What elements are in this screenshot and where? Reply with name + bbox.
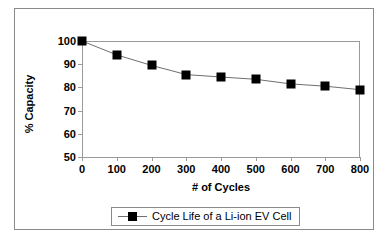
- x-tick-label: 800: [351, 163, 369, 175]
- x-tick: [325, 157, 326, 161]
- y-tick-label: 70: [64, 105, 76, 117]
- y-tick-label: 50: [64, 151, 76, 163]
- x-tick-label: 700: [316, 163, 334, 175]
- y-tick-label: 60: [64, 128, 76, 140]
- x-tick: [186, 157, 187, 161]
- x-tick-label: 300: [177, 163, 195, 175]
- x-tick-label: 600: [281, 163, 299, 175]
- x-tick: [221, 157, 222, 161]
- x-tick-label: 200: [142, 163, 160, 175]
- x-tick-label: 0: [79, 163, 85, 175]
- data-point-marker: [78, 37, 87, 46]
- legend-line-segment-right: [137, 216, 147, 217]
- legend-line-segment-left: [118, 216, 128, 217]
- data-point-marker: [217, 72, 226, 81]
- x-tick-label: 500: [247, 163, 265, 175]
- data-point-marker: [321, 82, 330, 91]
- legend-marker-square-icon: [128, 212, 137, 221]
- y-tick-label: 90: [64, 58, 76, 70]
- data-point-marker: [286, 79, 295, 88]
- data-point-marker: [182, 70, 191, 79]
- x-tick: [117, 157, 118, 161]
- x-tick: [82, 157, 83, 161]
- x-tick-label: 100: [108, 163, 126, 175]
- data-point-marker: [112, 50, 121, 59]
- chart-legend: Cycle Life of a Li-ion EV Cell: [111, 207, 300, 226]
- x-tick: [360, 157, 361, 161]
- y-tick-label: 100: [58, 35, 76, 47]
- data-point-marker: [251, 75, 260, 84]
- x-tick: [152, 157, 153, 161]
- legend-entry-label: Cycle Life of a Li-ion EV Cell: [152, 210, 291, 222]
- legend-swatch: [118, 212, 147, 221]
- x-tick: [291, 157, 292, 161]
- x-axis-title: # of Cycles: [82, 181, 360, 193]
- y-tick-label: 80: [64, 81, 76, 93]
- series-line: [82, 41, 360, 157]
- data-point-marker: [147, 61, 156, 70]
- plot-area: 5060708090100 0100200300400500600700800: [82, 41, 360, 157]
- x-tick-label: 400: [212, 163, 230, 175]
- y-axis-title: % Capacity: [23, 75, 35, 134]
- data-point-marker: [356, 85, 365, 94]
- chart-frame: % Capacity # of Cycles 5060708090100 010…: [14, 8, 374, 230]
- x-tick: [256, 157, 257, 161]
